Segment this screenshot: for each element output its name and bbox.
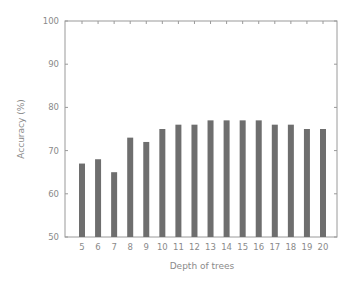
bar [79, 164, 85, 237]
x-tick-label: 8 [127, 242, 132, 252]
bar [304, 129, 310, 237]
bar [208, 120, 214, 237]
x-tick-label: 20 [318, 242, 329, 252]
x-tick-label: 19 [302, 242, 313, 252]
x-tick-label: 9 [144, 242, 149, 252]
bar [111, 172, 117, 237]
bar [95, 159, 101, 237]
x-tick-label: 11 [173, 242, 184, 252]
y-tick-label: 50 [48, 232, 59, 242]
x-tick-label: 14 [221, 242, 232, 252]
x-tick-label: 6 [95, 242, 100, 252]
x-tick-label: 10 [157, 242, 168, 252]
bar [288, 125, 294, 237]
y-tick-label: 60 [48, 189, 59, 199]
bar [159, 129, 165, 237]
bar [320, 129, 326, 237]
x-tick-label: 13 [205, 242, 216, 252]
bar [272, 125, 278, 237]
y-tick-label: 70 [48, 146, 59, 156]
y-axis-label: Accuracy (%) [16, 99, 26, 159]
bar [240, 120, 246, 237]
x-tick-label: 12 [189, 242, 200, 252]
plot-frame [65, 21, 337, 237]
bar [175, 125, 181, 237]
bar [256, 120, 262, 237]
x-tick-label: 5 [79, 242, 84, 252]
x-tick-label: 17 [269, 242, 280, 252]
x-tick-label: 18 [285, 242, 296, 252]
y-tick-label: 80 [48, 102, 59, 112]
plot-axes [65, 21, 337, 237]
bar-series [79, 120, 326, 237]
bar-chart: 5060708090100 56789101112131415161718192… [0, 0, 355, 284]
y-tick-label: 100 [43, 16, 59, 26]
bar [224, 120, 230, 237]
x-tick-label: 7 [111, 242, 116, 252]
bar [127, 138, 133, 237]
bar [143, 142, 149, 237]
x-tick-label: 16 [253, 242, 264, 252]
bar [191, 125, 197, 237]
x-axis-label: Depth of trees [170, 261, 235, 271]
x-tick-label: 15 [237, 242, 248, 252]
y-tick-label: 90 [48, 59, 59, 69]
